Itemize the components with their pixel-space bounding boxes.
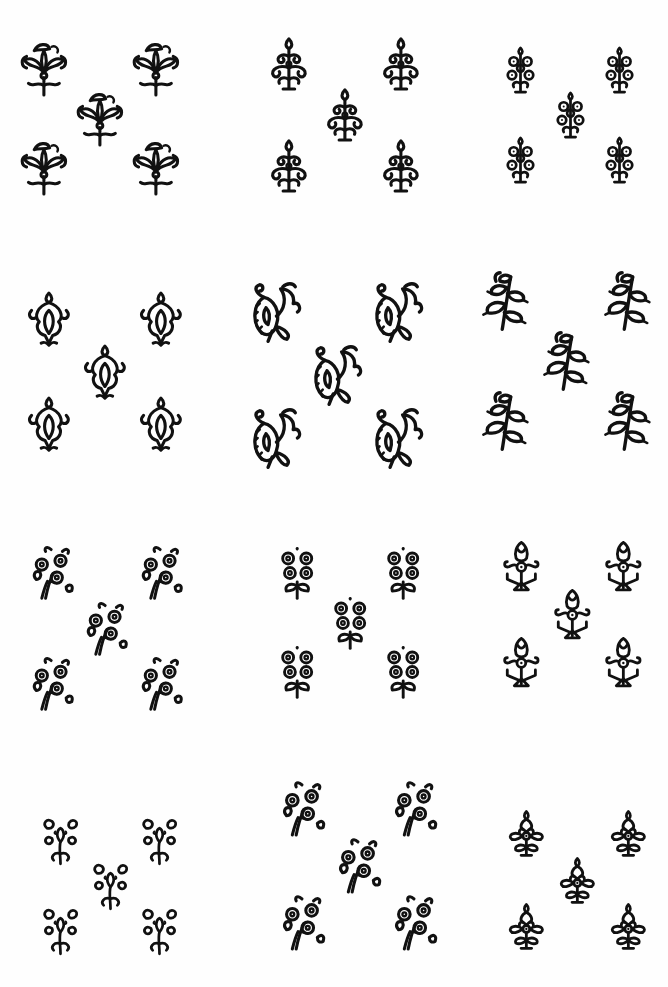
motif-group-lotus-bouquet <box>15 35 185 200</box>
rosette-cluster-motif-icon <box>270 540 324 606</box>
rosette-vine-motif-icon <box>25 646 81 720</box>
geometric-tree-motif-icon <box>546 583 599 647</box>
paisley-spray-motif-icon <box>306 333 369 417</box>
rosette-vine-motif-icon <box>25 535 81 609</box>
motif-group-dotted-flower-spray <box>495 40 645 190</box>
flame-tree-motif-icon <box>316 81 374 149</box>
mughal-buta-motif-icon <box>132 285 190 355</box>
flame-tree-motif-icon <box>260 30 318 98</box>
scroll-blossom-motif-icon <box>134 810 185 870</box>
rosette-vine-motif-icon <box>134 535 190 609</box>
motif-group-leafy-spray <box>475 260 660 460</box>
scroll-blossom-motif-icon <box>35 810 86 870</box>
dotted-flower-spray-motif-icon <box>495 40 546 100</box>
rosette-vine-motif-icon <box>331 827 389 903</box>
paisley-spray-motif-icon <box>367 270 430 354</box>
scroll-blossom-motif-icon <box>134 900 185 960</box>
motif-group-rosette-vine <box>25 535 190 720</box>
rosette-vine-motif-icon <box>275 884 333 960</box>
mughal-buta-motif-icon <box>20 390 78 460</box>
geometric-tree-motif-icon <box>597 535 650 599</box>
flame-tree-motif-icon <box>372 30 430 98</box>
rosette-vine-motif-icon <box>387 884 445 960</box>
lotus-bouquet-motif-icon <box>71 85 129 151</box>
leafy-spray-motif-icon <box>536 320 599 400</box>
geometric-tree-motif-icon <box>495 631 548 695</box>
geometric-tree-motif-icon <box>495 535 548 599</box>
motif-group-scroll-blossom <box>35 810 185 960</box>
motif-group-geometric-tree <box>495 535 650 695</box>
diamond-tree-motif-icon <box>500 805 553 867</box>
dotted-flower-spray-motif-icon <box>594 130 645 190</box>
flame-tree-motif-icon <box>260 132 318 200</box>
scroll-blossom-motif-icon <box>85 855 136 915</box>
dotted-flower-spray-motif-icon <box>594 40 645 100</box>
motif-group-mughal-buta <box>20 285 190 460</box>
scroll-blossom-motif-icon <box>35 900 86 960</box>
motif-group-diamond-tree <box>500 805 655 960</box>
lotus-bouquet-motif-icon <box>127 35 185 101</box>
rosette-vine-motif-icon <box>79 591 135 665</box>
leafy-spray-motif-icon <box>597 260 660 340</box>
rosette-vine-motif-icon <box>134 646 190 720</box>
rosette-vine-motif-icon <box>387 770 445 846</box>
mughal-buta-motif-icon <box>132 390 190 460</box>
motif-group-rosette-cluster <box>270 540 430 705</box>
rosette-cluster-motif-icon <box>323 590 377 656</box>
lotus-bouquet-motif-icon <box>15 134 73 200</box>
leafy-spray-motif-icon <box>475 380 538 460</box>
motif-pattern-sheet <box>0 0 668 987</box>
rosette-cluster-motif-icon <box>376 540 430 606</box>
diamond-tree-motif-icon <box>551 852 604 914</box>
leafy-spray-motif-icon <box>475 260 538 340</box>
rosette-vine-motif-icon <box>275 770 333 846</box>
geometric-tree-motif-icon <box>597 631 650 695</box>
rosette-cluster-motif-icon <box>376 639 430 705</box>
diamond-tree-motif-icon <box>500 898 553 960</box>
mughal-buta-motif-icon <box>20 285 78 355</box>
flame-tree-motif-icon <box>372 132 430 200</box>
dotted-flower-spray-motif-icon <box>495 130 546 190</box>
motif-group-flame-tree <box>260 30 430 200</box>
lotus-bouquet-motif-icon <box>15 35 73 101</box>
dotted-flower-spray-motif-icon <box>545 85 596 145</box>
motif-group-paisley-spray <box>245 270 430 480</box>
mughal-buta-motif-icon <box>76 338 134 408</box>
leafy-spray-motif-icon <box>597 380 660 460</box>
diamond-tree-motif-icon <box>602 898 655 960</box>
paisley-spray-motif-icon <box>367 396 430 480</box>
diamond-tree-motif-icon <box>602 805 655 867</box>
lotus-bouquet-motif-icon <box>127 134 185 200</box>
rosette-cluster-motif-icon <box>270 639 324 705</box>
paisley-spray-motif-icon <box>245 270 308 354</box>
motif-group-rosette-vine <box>275 770 445 960</box>
paisley-spray-motif-icon <box>245 396 308 480</box>
